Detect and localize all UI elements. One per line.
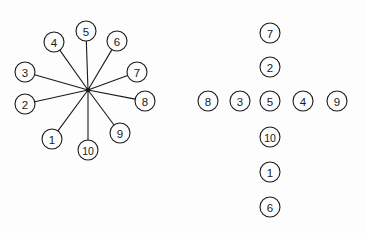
node-4[interactable]: 4 (293, 91, 313, 111)
node-9[interactable]: 9 (110, 123, 130, 143)
node-label-1: 1 (267, 167, 273, 179)
edge-hub-7 (88, 75, 128, 90)
node-label-2: 2 (22, 99, 28, 111)
node-label-2: 2 (267, 62, 273, 74)
node-label-8: 8 (142, 96, 148, 108)
edge-hub-3 (35, 75, 88, 90)
node-3[interactable]: 3 (230, 91, 250, 111)
edge-hub-8 (88, 90, 135, 99)
edge-hub-4 (60, 50, 88, 90)
hub-center-dot (86, 88, 90, 92)
node-label-3: 3 (22, 67, 28, 79)
node-label-10: 10 (82, 145, 94, 157)
edge-hub-6 (88, 50, 112, 90)
node-4[interactable]: 4 (44, 32, 64, 52)
edge-hub-9 (88, 90, 114, 125)
node-7[interactable]: 7 (127, 62, 147, 82)
node-9[interactable]: 9 (327, 91, 347, 111)
node-label-7: 7 (267, 28, 273, 40)
graph-diagram: 1234567891072835491016 (0, 0, 366, 233)
node-label-7: 7 (134, 67, 140, 79)
node-label-4: 4 (51, 37, 58, 49)
node-1[interactable]: 1 (42, 129, 62, 149)
node-label-4: 4 (300, 96, 307, 108)
node-8[interactable]: 8 (198, 91, 218, 111)
node-label-5: 5 (267, 96, 273, 108)
node-label-1: 1 (49, 134, 55, 146)
edge-hub-5 (86, 41, 88, 90)
node-6[interactable]: 6 (107, 31, 127, 51)
node-label-6: 6 (114, 36, 120, 48)
diagram-canvas: 1234567891072835491016 (0, 0, 366, 233)
node-3[interactable]: 3 (15, 62, 35, 82)
node-label-9: 9 (117, 128, 123, 140)
node-5[interactable]: 5 (76, 21, 96, 41)
node-6[interactable]: 6 (260, 197, 280, 217)
node-1[interactable]: 1 (260, 162, 280, 182)
nodes-layer: 1234567891072835491016 (15, 21, 347, 217)
node-7[interactable]: 7 (260, 23, 280, 43)
node-2[interactable]: 2 (15, 94, 35, 114)
node-8[interactable]: 8 (135, 91, 155, 111)
node-label-5: 5 (83, 26, 89, 38)
node-label-10: 10 (264, 132, 276, 144)
node-label-3: 3 (237, 96, 243, 108)
hubs-layer (86, 88, 90, 92)
node-label-9: 9 (334, 96, 340, 108)
node-5[interactable]: 5 (260, 91, 280, 111)
node-label-6: 6 (267, 202, 273, 214)
node-10[interactable]: 10 (78, 140, 98, 160)
node-2[interactable]: 2 (260, 57, 280, 77)
node-label-8: 8 (205, 96, 211, 108)
node-10[interactable]: 10 (260, 127, 280, 147)
